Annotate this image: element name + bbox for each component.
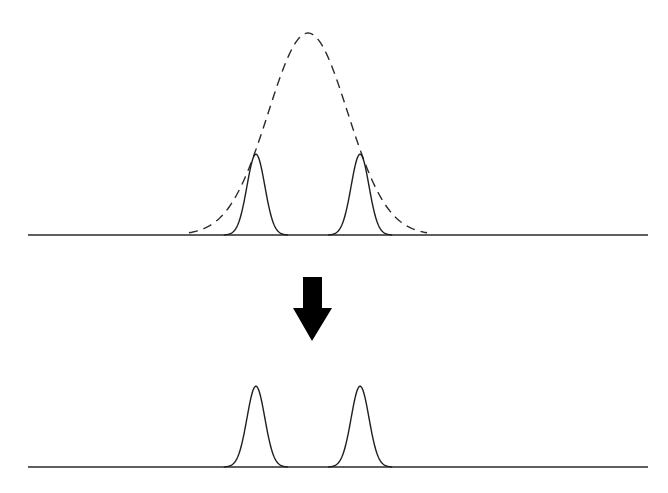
resolution-diagram	[0, 0, 668, 493]
peak-left-bottom	[224, 386, 288, 467]
peak-right-bottom	[328, 386, 392, 467]
panel-before	[28, 33, 648, 235]
peak-right-top	[328, 154, 392, 235]
panel-after	[28, 386, 648, 467]
dashed-envelope-curve	[189, 33, 427, 233]
peak-left-top	[224, 154, 288, 235]
down-arrow-icon	[293, 277, 332, 341]
